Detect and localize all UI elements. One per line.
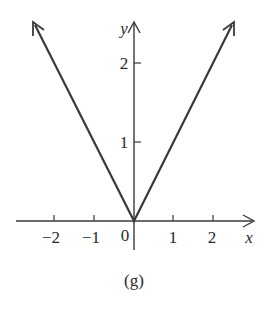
origin-label: 0 bbox=[121, 226, 130, 245]
figure-caption: (g) bbox=[124, 271, 144, 290]
x-tick-label: −1 bbox=[82, 228, 100, 247]
x-tick-label: 1 bbox=[169, 228, 178, 247]
x-tick-label: −2 bbox=[42, 228, 60, 247]
y-ticks bbox=[134, 63, 141, 142]
x-axis-label: x bbox=[244, 228, 253, 247]
y-axis-label: y bbox=[118, 19, 128, 38]
graph-figure: −2 −1 0 1 2 x 2 1 y (g) bbox=[0, 0, 267, 321]
y-tick-label: 1 bbox=[120, 133, 129, 152]
y-tick-label: 2 bbox=[120, 54, 129, 73]
x-tick-label: 2 bbox=[208, 228, 217, 247]
